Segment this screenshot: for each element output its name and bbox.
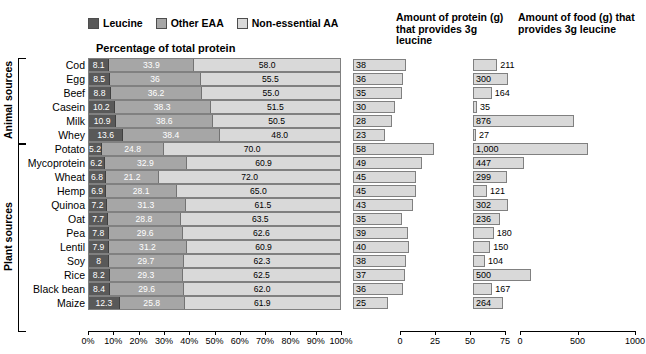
protein-bar-cell: 38 (353, 254, 463, 268)
axis-tick (240, 331, 241, 335)
stacked-bar: 12.325.861.9 (88, 296, 341, 310)
panel-gap (341, 170, 353, 184)
axis-tick (520, 331, 521, 335)
food-bar: 167 (473, 283, 492, 295)
chart-row: Beef8.836.255.035164 (0, 86, 646, 100)
legend-item-non-essential-aa: Non-essential AA (237, 17, 339, 29)
chart-row: Potato5.224.870.0581,000 (0, 142, 646, 156)
row-label-wheat: Wheat (0, 170, 88, 184)
bar-segment-ne: 51.5 (211, 101, 340, 113)
protein-bar-cell: 36 (353, 72, 463, 86)
protein-bar-cell: 35 (353, 212, 463, 226)
bar-segment-ne: 70.0 (164, 143, 340, 155)
bar-segment-leucine: 7.2 (89, 199, 107, 211)
panel-gap (463, 184, 473, 198)
food-bar-cell: 236 (473, 212, 595, 226)
row-label-hemp: Hemp (0, 184, 88, 198)
panel-gap (463, 58, 473, 72)
bar-segment-leucine: 13.6 (89, 129, 123, 141)
legend: Leucine Other EAA Non-essential AA (88, 17, 338, 29)
food-bar-value: 211 (500, 61, 514, 70)
panel-gap (463, 170, 473, 184)
bar-segment-ne: 50.5 (213, 115, 340, 127)
stacked-bar: 8.229.362.5 (88, 268, 341, 282)
row-label-mycoprotein: Mycoprotein (0, 156, 88, 170)
protein-bar: 43 (353, 199, 413, 211)
axis-tick (215, 331, 216, 335)
bar-segment-eaa: 28.1 (106, 185, 177, 197)
legend-item-leucine: Leucine (88, 17, 143, 29)
bar-segment-leucine: 7.9 (89, 241, 109, 253)
chart-row: Casein10.238.351.53035 (0, 100, 646, 114)
panel-gap (463, 282, 473, 296)
axis-tick (113, 331, 114, 335)
protein-bar-cell: 28 (353, 114, 463, 128)
protein-bar: 37 (353, 269, 405, 281)
food-bar-value: 150 (493, 243, 508, 252)
bar-segment-eaa: 38.3 (115, 101, 211, 113)
bar-segment-eaa: 21.2 (106, 171, 159, 183)
row-label-maize: Maize (0, 296, 88, 310)
axis-tick-label: 10% (104, 337, 122, 346)
food-bar-cell: 121 (473, 184, 595, 198)
panel-gap (463, 254, 473, 268)
food-bar-cell: 302 (473, 198, 595, 212)
food-bar-value: 180 (497, 229, 512, 238)
row-label-milk: Milk (0, 114, 88, 128)
axis-tick-label: 60% (231, 337, 249, 346)
food-bar-value: 121 (490, 187, 505, 196)
panel-gap (463, 212, 473, 226)
row-label-rice: Rice (0, 268, 88, 282)
axis-tick (341, 331, 342, 335)
food-bar-cell: 150 (473, 240, 595, 254)
food-bar: 302 (473, 199, 508, 211)
protein-bar-cell: 45 (353, 184, 463, 198)
protein-bar: 36 (353, 283, 403, 295)
panel-gap (463, 128, 473, 142)
panel-gap (341, 156, 353, 170)
bar-segment-leucine: 12.3 (89, 297, 120, 309)
stacked-bar: 8.429.662.0 (88, 282, 341, 296)
bar-segment-leucine: 8.1 (89, 59, 109, 71)
axis-tick-label: 100% (329, 337, 352, 346)
stacked-bar: 6.821.272.0 (88, 170, 341, 184)
axis-tick (635, 331, 636, 335)
panel-gap (341, 282, 353, 296)
panel-gap (463, 268, 473, 282)
bar-segment-leucine: 8.5 (89, 73, 110, 85)
bar-segment-leucine: 6.8 (89, 171, 106, 183)
axis-tick (316, 331, 317, 335)
chart-row: Soy829.762.338104 (0, 254, 646, 268)
chart-row: Lentil7.931.260.940150 (0, 240, 646, 254)
panel-gap (341, 128, 353, 142)
bar-segment-leucine: 6.9 (89, 185, 106, 197)
bar-segment-ne: 62.3 (184, 255, 340, 267)
food-bar-cell: 180 (473, 226, 595, 240)
axis-tick (435, 331, 436, 335)
panel-gap (341, 86, 353, 100)
axis-tick-label: 50 (465, 337, 475, 346)
stacked-bar: 8.53655.5 (88, 72, 341, 86)
food-bar-value: 27 (479, 131, 489, 140)
panel-gap (341, 142, 353, 156)
protein-bar: 30 (353, 101, 395, 113)
axis-tick-label: 50% (205, 337, 223, 346)
panel-gap (463, 114, 473, 128)
food-bar: 876 (473, 115, 574, 127)
food-bar: 211 (473, 59, 497, 71)
row-label-egg: Egg (0, 72, 88, 86)
panel-gap (463, 100, 473, 114)
protein-bar: 40 (353, 241, 409, 253)
axis-tick-label: 90% (307, 337, 325, 346)
bar-segment-eaa: 28.8 (108, 213, 180, 225)
stacked-bar: 13.638.448.0 (88, 128, 341, 142)
bar-segment-ne: 55.5 (201, 73, 340, 85)
protein-bar-cell: 38 (353, 58, 463, 72)
food-bar: 35 (473, 101, 477, 113)
chart-row: Egg8.53655.536300 (0, 72, 646, 86)
protein-bar: 23 (353, 129, 385, 141)
protein-bar: 45 (353, 185, 416, 197)
axis-tick-label: 0 (517, 337, 522, 346)
axis-tick (400, 331, 401, 335)
chart-row: Pea7.829.662.639180 (0, 226, 646, 240)
